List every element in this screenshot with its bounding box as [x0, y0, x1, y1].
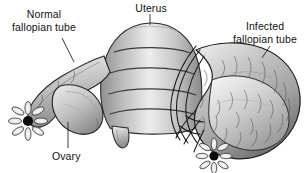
label-normal-fallopian-tube: Normal fallopian tube [8, 8, 80, 33]
label-normal-line1: Normal [8, 8, 80, 21]
structure-left-ovary [52, 85, 103, 135]
label-uterus-line1: Uterus [128, 2, 174, 15]
label-ovary: Ovary [52, 150, 81, 163]
structure-normal-fimbriae [8, 101, 47, 140]
fimbriae-center-left [23, 116, 33, 126]
label-infected-line2: fallopian tube [226, 33, 304, 46]
anatomy-figure: Normal fallopian tube Uterus Infected fa… [0, 0, 308, 173]
leader-normal-tube [62, 38, 74, 62]
fimbriae-center-right [209, 151, 218, 160]
structure-cervix-stump [112, 126, 129, 148]
label-ovary-line1: Ovary [52, 150, 81, 163]
label-infected-fallopian-tube: Infected fallopian tube [226, 20, 304, 45]
label-normal-line2: fallopian tube [8, 21, 80, 34]
structure-infected-fimbriae [196, 138, 232, 173]
label-uterus: Uterus [128, 2, 174, 15]
label-infected-line1: Infected [226, 20, 304, 33]
structure-infected-fallopian-tube [195, 43, 301, 159]
